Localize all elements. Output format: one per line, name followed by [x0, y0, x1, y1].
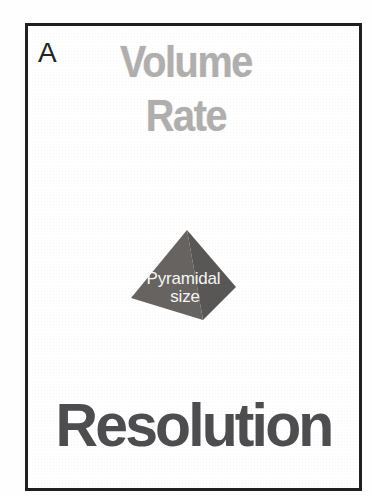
volume-rate-line1: Volume — [44, 35, 328, 89]
pyramid-shape: Pyramidal size — [128, 227, 240, 323]
volume-rate-label: Volume Rate — [44, 35, 328, 143]
pyramid-label-line2: size — [170, 287, 199, 306]
resolution-label: Resolution — [36, 392, 350, 458]
volume-rate-line2: Rate — [44, 89, 328, 143]
figure-panel: A Volume Rate Pyramidal size Resolution — [0, 0, 372, 496]
pyramid-label-line1: Pyramidal — [147, 269, 221, 288]
